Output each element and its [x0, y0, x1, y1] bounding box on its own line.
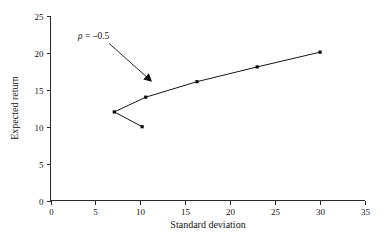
- y-tick-label: 0: [39, 197, 44, 207]
- data-point-marker: [195, 80, 198, 83]
- x-tick-label: 25: [271, 207, 280, 217]
- axes-group: [51, 16, 366, 201]
- y-axis-title: Expected return: [9, 76, 20, 140]
- chart-figure: 05101520253035 0510152025 Standard devia…: [0, 0, 385, 239]
- series-line: [114, 52, 320, 127]
- x-tick-label: 0: [49, 207, 54, 217]
- x-tick-label: 5: [93, 207, 98, 217]
- x-axis-title: Standard deviation: [170, 219, 245, 230]
- data-point-marker: [256, 65, 259, 68]
- chart-plot-area: [0, 0, 385, 239]
- x-axis-ticks: [52, 201, 366, 205]
- x-tick-label: 15: [181, 207, 190, 217]
- x-tick-label: 35: [361, 207, 370, 217]
- x-tick-label: 30: [316, 207, 325, 217]
- data-point-marker: [318, 51, 321, 54]
- x-tick-label: 20: [226, 207, 235, 217]
- y-tick-label: 5: [39, 160, 44, 170]
- y-axis-ticks: [47, 17, 51, 202]
- x-tick-label: 10: [136, 207, 145, 217]
- data-series-group: [113, 51, 322, 129]
- annotation-arrow: [109, 43, 152, 81]
- annotation-arrow-shaft: [109, 43, 146, 76]
- y-tick-label: 10: [35, 123, 44, 133]
- data-point-marker: [141, 125, 144, 128]
- y-tick-label: 20: [35, 49, 44, 59]
- data-point-marker: [144, 96, 147, 99]
- rho-annotation-label: ρ = –0.5: [78, 31, 109, 41]
- y-tick-label: 25: [35, 12, 44, 22]
- y-tick-label: 15: [35, 86, 44, 96]
- rho-value: –0.5: [93, 31, 110, 41]
- data-point-marker: [113, 110, 116, 113]
- rho-equals: =: [83, 31, 93, 41]
